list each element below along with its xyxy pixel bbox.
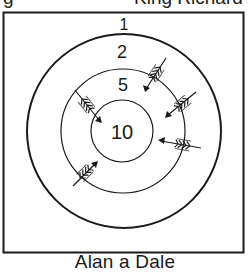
score-label-1: 1 — [120, 16, 129, 33]
arrow-icon — [73, 161, 98, 186]
archery-target-figure: 1 2 5 10 — [0, 0, 250, 272]
arrow-icon — [143, 58, 166, 92]
arrow-icon — [165, 92, 196, 118]
score-label-2: 2 — [117, 42, 127, 62]
score-label-5: 5 — [118, 75, 128, 95]
figure-caption: Alan a Dale — [0, 251, 250, 272]
arrow-icon — [158, 137, 201, 151]
arrow-icon — [75, 90, 102, 123]
score-label-10: 10 — [111, 121, 133, 143]
